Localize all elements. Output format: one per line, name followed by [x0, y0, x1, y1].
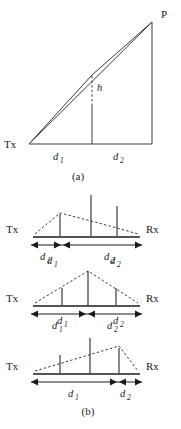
profile-3-envelope	[35, 346, 138, 371]
figure-container: Tx P h d 1 d 2 (a) Tx	[0, 0, 181, 429]
panel-a-d1-label: d 1	[53, 151, 64, 165]
profile-1-rx-label: Rx	[146, 223, 159, 235]
profile-2-arrow-left	[31, 311, 38, 318]
profile-2-envelope	[35, 271, 138, 303]
panel-a-tx-label: Tx	[4, 138, 17, 150]
profile-3-d2-base: d	[120, 388, 126, 399]
profile-1-tx-label: Tx	[6, 223, 19, 235]
technical-figure: Tx P h d 1 d 2 (a) Tx	[0, 0, 181, 429]
panel-a-d2-base: d	[113, 151, 119, 162]
profile-2-d1-upper-label: d 1	[47, 255, 58, 269]
profile-2-rx-label: Rx	[146, 292, 159, 304]
panel-a-caption: (a)	[72, 170, 85, 183]
profile-1-envelope	[35, 213, 138, 234]
profile-2-d2-upper-base: d	[110, 255, 116, 266]
panel-a-height-label: h	[97, 82, 102, 93]
profile-1-arrow-right	[135, 242, 142, 249]
profile-3-rx-label: Rx	[146, 360, 159, 372]
profile-3-arrow-d2-left	[119, 379, 126, 386]
profile-3-d1-upper-base: d	[57, 315, 63, 326]
profile-2-d2-subscript: 2	[114, 325, 118, 334]
profile-3-arrow-right	[135, 379, 142, 386]
profile-late-peak: d 1 d 2 Tx Rx d	[6, 315, 159, 402]
profile-early-peak: Tx Rx d 1 d 2	[6, 195, 159, 265]
profile-3-d1-subscript: 1	[75, 393, 79, 402]
profile-3-arrow-left	[31, 379, 38, 386]
profile-2-d1-upper-base: d	[47, 255, 53, 266]
panel-a-p-label: P	[161, 8, 167, 20]
profile-2-d2-upper-subscript: 2	[117, 260, 121, 269]
panel-a-d1-base: d	[53, 151, 59, 162]
profile-3-d1-label: d 1	[68, 388, 79, 402]
profile-1-arrow-d1-right	[54, 242, 61, 249]
panel-a: Tx P h d 1 d 2 (a)	[4, 8, 167, 183]
profile-2-arrow-right	[135, 311, 142, 318]
profile-3-d2-subscript: 2	[127, 393, 131, 402]
panel-a-d2-subscript: 2	[120, 156, 124, 165]
profile-center-peak: d 1 d 2 Tx Rx d	[6, 255, 159, 334]
panel-a-d2-label: d 2	[113, 151, 124, 165]
panel-a-diffracted-ray	[92, 22, 152, 75]
profile-3-d1-base: d	[68, 388, 74, 399]
profile-3-d2-upper-subscript: 2	[120, 320, 124, 329]
profile-1-arrow-left	[31, 242, 38, 249]
profile-3-tx-label: Tx	[6, 360, 19, 372]
profile-2-arrow-d1-right	[79, 311, 86, 318]
profile-2-d1-subscript: 1	[59, 325, 63, 334]
profile-2-arrow-d2-left	[88, 311, 95, 318]
profile-2-d2-upper-label: d 2	[110, 255, 121, 269]
profile-1-d1-base: d	[40, 251, 46, 262]
panel-a-direct-path	[29, 22, 152, 144]
profile-2-tx-label: Tx	[6, 292, 19, 304]
profile-3-d1-upper-subscript: 1	[64, 320, 68, 329]
profile-3-arrow-d1-right	[110, 379, 117, 386]
profile-3-d2-upper-base: d	[113, 315, 119, 326]
panel-a-d1-subscript: 1	[60, 156, 64, 165]
profile-1-arrow-d2-left	[63, 242, 70, 249]
panel-a-incident-ray	[29, 75, 92, 144]
panel-b-caption: (b)	[82, 405, 95, 418]
profile-3-d2-label: d 2	[120, 388, 131, 402]
profile-2-d1-upper-subscript: 1	[54, 260, 58, 269]
